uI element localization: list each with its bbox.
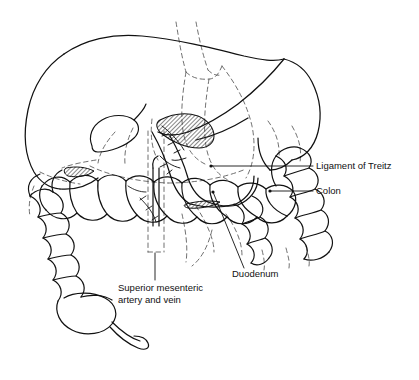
dot-duodenum (211, 190, 214, 193)
label-ligament-of-treitz: Ligament of Treitz (316, 160, 392, 171)
anatomy-illustration: Ligament of Treitz Colon Duodenum Superi… (0, 0, 419, 380)
label-colon: Colon (316, 185, 341, 196)
label-superior-mesenteric-line-2: artery and vein (118, 294, 181, 305)
dot-colon (268, 189, 271, 192)
dot-ligament-of-treitz (209, 164, 212, 167)
label-duodenum: Duodenum (232, 268, 279, 279)
label-superior-mesenteric-line-1: Superior mesenteric (118, 282, 203, 293)
